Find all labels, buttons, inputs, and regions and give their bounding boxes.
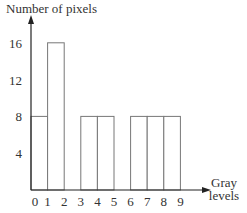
y-axis-arrow-icon <box>28 15 34 24</box>
histogram-chart: 4812160123456789Number of pixelsGrayleve… <box>0 0 247 213</box>
x-axis-label: levels <box>209 188 239 203</box>
histogram-bar-6 <box>131 116 148 190</box>
histogram-bar-8 <box>164 116 181 190</box>
y-axis-label: Number of pixels <box>6 1 97 16</box>
y-tick-label: 12 <box>9 73 22 88</box>
y-tick-label: 16 <box>9 36 23 51</box>
x-tick-label: 6 <box>127 194 134 209</box>
x-tick-label: 3 <box>78 194 85 209</box>
y-tick-label: 8 <box>16 109 23 124</box>
histogram-bar-3 <box>81 116 98 190</box>
x-tick-label: 5 <box>111 194 118 209</box>
x-tick-label: 7 <box>144 194 151 209</box>
x-tick-label: 9 <box>177 194 184 209</box>
histogram-bar-4 <box>97 116 114 190</box>
x-tick-label: 4 <box>94 194 101 209</box>
x-tick-label: 0 <box>32 194 39 209</box>
x-tick-label: 8 <box>161 194 168 209</box>
histogram-bar-0 <box>31 116 48 190</box>
x-tick-label: 2 <box>61 194 68 209</box>
x-tick-label: 1 <box>44 194 51 209</box>
y-tick-label: 4 <box>16 146 23 161</box>
histogram-bar-7 <box>147 116 164 190</box>
histogram-bar-1 <box>48 43 65 190</box>
